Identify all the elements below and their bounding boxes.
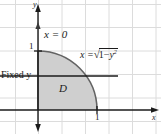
radical-body: 1−y2 bbox=[99, 48, 118, 60]
radical-group: √1−y2 bbox=[94, 49, 118, 60]
x-axis-arrow-right bbox=[151, 107, 159, 113]
y-axis-label: y bbox=[33, 1, 37, 9]
grid-lines bbox=[0, 0, 161, 134]
x-axis-tick-label-1: 1 bbox=[95, 113, 100, 122]
x-axis-label: x bbox=[152, 114, 156, 122]
y-axis-tick-label-1: 1 bbox=[29, 42, 34, 51]
figure-canvas: y x x = 0 x =√1−y2 Fixed y D 1 1 bbox=[0, 0, 161, 134]
y-axis-inner-arrow bbox=[35, 22, 40, 29]
radicand-exponent: 2 bbox=[114, 49, 117, 55]
label-x-equals-zero: x = 0 bbox=[44, 29, 67, 40]
y-axis-arrow-down bbox=[35, 124, 41, 132]
label-fixed-y: Fixed y bbox=[1, 70, 31, 80]
label-region-d: D bbox=[59, 83, 67, 94]
label-curve-equation: x =√1−y2 bbox=[80, 49, 118, 60]
figure-graphics bbox=[0, 0, 161, 134]
label-curve-prefix: x = bbox=[80, 49, 94, 60]
